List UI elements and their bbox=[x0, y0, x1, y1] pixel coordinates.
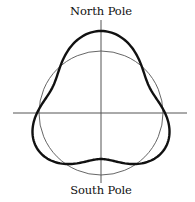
pole-diagram bbox=[0, 0, 195, 202]
south-pole-label: South Pole bbox=[70, 183, 132, 197]
north-pole-label: North Pole bbox=[70, 4, 132, 18]
